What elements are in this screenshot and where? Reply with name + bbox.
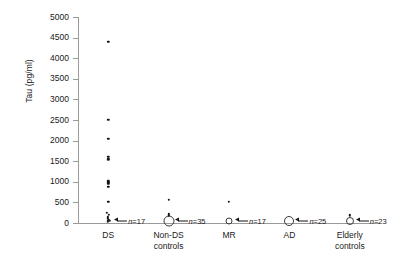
sample-size-annotation: n=17 <box>235 216 266 225</box>
data-point <box>107 158 109 160</box>
y-tick-label: 4500 <box>9 33 69 42</box>
y-tick-label: 3000 <box>9 95 69 104</box>
sample-size-annotation: n=23 <box>356 216 387 225</box>
plot-area <box>78 17 380 223</box>
y-tick-label: 3500 <box>9 74 69 83</box>
group-marker-ring <box>284 216 294 226</box>
y-tick-label: 1000 <box>9 177 69 186</box>
sample-size-annotation: n=17 <box>114 216 145 225</box>
left-arrow-icon <box>235 218 248 224</box>
group-marker-ring <box>346 217 354 225</box>
y-tick-label: 5000 <box>9 13 69 22</box>
left-arrow-icon <box>356 218 369 224</box>
y-tick-label: 500 <box>9 198 69 207</box>
sample-size-annotation: n=35 <box>175 216 206 225</box>
sample-size-annotation: n=25 <box>295 216 326 225</box>
left-arrow-icon <box>114 218 127 224</box>
y-tick-label: 1500 <box>9 157 69 166</box>
sample-size-label: n=23 <box>370 216 387 225</box>
sample-size-label: n=35 <box>189 216 206 225</box>
data-point <box>167 198 169 200</box>
group-marker-ring <box>163 215 174 226</box>
tau-scatter-figure: Tau (pg/ml) 0500100015002000250030003500… <box>0 0 400 267</box>
sample-size-label: n=17 <box>249 216 266 225</box>
sample-size-label: n=17 <box>128 216 145 225</box>
data-point <box>107 137 109 139</box>
data-point <box>107 41 109 43</box>
left-arrow-icon <box>175 218 188 224</box>
y-tick-label: 2000 <box>9 136 69 145</box>
y-tick-label: 2500 <box>9 116 69 125</box>
y-tick-mark <box>73 223 78 224</box>
data-point <box>107 186 109 188</box>
data-point <box>228 201 230 203</box>
data-point <box>107 119 109 121</box>
left-arrow-icon <box>295 218 308 224</box>
y-tick-label: 0 <box>9 219 69 228</box>
sample-size-label: n=25 <box>309 216 326 225</box>
y-tick-label: 4000 <box>9 54 69 63</box>
x-category-label: Elderly controls <box>307 230 393 252</box>
group-marker-ring <box>226 217 233 224</box>
data-point <box>107 200 109 202</box>
